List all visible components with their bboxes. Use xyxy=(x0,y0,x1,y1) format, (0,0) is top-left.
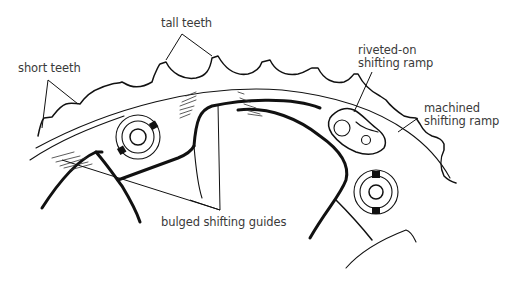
label-machined-ramp-line1: machined xyxy=(424,102,480,114)
chainring-bolt-left xyxy=(116,115,160,159)
label-bulged-guides: bulged shifting guides xyxy=(161,216,286,228)
label-short-teeth: short teeth xyxy=(18,62,81,74)
chainring-illustration xyxy=(0,0,506,282)
leader-tall-teeth xyxy=(166,34,212,60)
spider-arm-left xyxy=(42,152,102,208)
spider-inner-cut xyxy=(194,146,202,198)
leader-machined-ramp xyxy=(398,118,418,132)
chainring-teeth-outline xyxy=(38,56,456,183)
spider-bottom xyxy=(346,230,416,268)
leader-riveted-ramp xyxy=(354,72,372,112)
chainring-diagram: tall teeth short teeth riveted-on shifti… xyxy=(0,0,506,282)
chainring-inner-rim xyxy=(30,116,124,160)
label-riveted-ramp-line2: shifting ramp xyxy=(358,57,433,69)
label-machined-ramp-line2: shifting ramp xyxy=(424,115,499,127)
chainring-bolt-right xyxy=(354,170,398,214)
spider-arm-left-b xyxy=(96,152,140,222)
riveted-shifting-ramp xyxy=(329,108,386,154)
spider-right-branch xyxy=(336,200,372,240)
label-tall-teeth: tall teeth xyxy=(161,17,212,29)
label-riveted-ramp-line1: riveted-on xyxy=(358,44,416,56)
leader-short-teeth xyxy=(42,80,78,128)
